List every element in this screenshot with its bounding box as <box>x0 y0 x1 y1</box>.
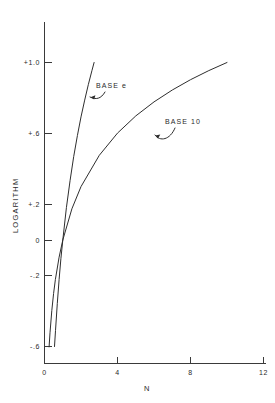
x-tick-label-8: 8 <box>182 369 199 376</box>
y-tick-label--0.6: -.6 <box>14 343 40 350</box>
series-label-base-e: BASE e <box>96 82 127 89</box>
y-tick-label--0.2: -.2 <box>14 272 40 279</box>
logarithm-chart-figure: +1.0 +.6 +.2 0 -.2 -.6 0 4 8 12 LOGARITH… <box>0 0 275 403</box>
y-tick-label-0: 0 <box>14 237 40 244</box>
chart-canvas <box>0 0 275 403</box>
x-tick-label-4: 4 <box>109 369 126 376</box>
base-e-curve <box>55 63 95 347</box>
y-tick-label-0.6: +.6 <box>14 130 40 137</box>
x-tick-label-12: 12 <box>255 369 272 376</box>
series-label-base-10: BASE 10 <box>165 118 201 125</box>
x-tick-label-0: 0 <box>36 369 53 376</box>
y-tick-label-1.0: +1.0 <box>14 59 40 66</box>
x-axis-title: N <box>144 385 151 393</box>
base-10-curve <box>49 63 227 347</box>
